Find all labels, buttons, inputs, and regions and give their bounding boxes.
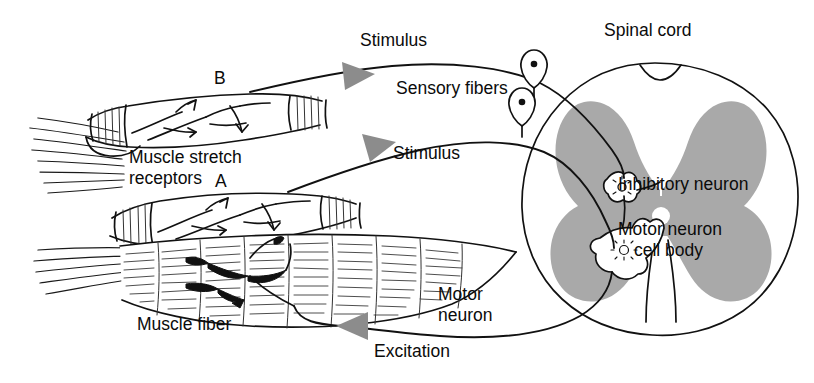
label-spindle-a: A [215, 171, 227, 191]
label-stimulus-top: Stimulus [360, 30, 427, 50]
arrowhead-stimulus-top [342, 62, 375, 90]
reflex-arc-figure: Stimulus Sensory fibers Stimulus Spinal … [0, 0, 814, 383]
diagram-canvas: Stimulus Sensory fibers Stimulus Spinal … [0, 0, 814, 383]
label-sensory-fibers: Sensory fibers [396, 78, 508, 98]
label-motor-neuron-1: Motor [438, 284, 483, 304]
label-inhibitory-neuron: Inhibitory neuron [618, 174, 748, 194]
spinal-cord [522, 63, 798, 335]
label-muscle-stretch-2: receptors [129, 168, 202, 188]
label-stimulus-mid: Stimulus [393, 143, 460, 163]
label-muscle-fiber: Muscle fiber [137, 314, 232, 334]
label-muscle-stretch-1: Muscle stretch [129, 147, 242, 167]
label-spindle-b: B [214, 68, 226, 88]
sensory-ganglion-cell-lower [509, 88, 535, 137]
label-motor-neuron-cell-body-2: cell body [634, 240, 703, 260]
spindle-A-capsule-right [321, 196, 361, 229]
label-motor-neuron-cell-body-1: Motor neuron [618, 219, 722, 239]
label-excitation: Excitation [374, 341, 450, 361]
label-motor-neuron-2: neuron [438, 305, 493, 325]
label-spinal-cord: Spinal cord [604, 20, 692, 40]
